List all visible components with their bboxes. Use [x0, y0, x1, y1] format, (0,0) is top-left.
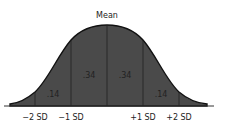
- normal-distribution-chart: Mean .14 .34 .34 .14 −2 SD −1 SD +1 SD +…: [0, 0, 225, 131]
- tick-label-minus-2sd: −2 SD: [22, 113, 48, 122]
- region-label: .34: [83, 71, 96, 80]
- region-label: .14: [47, 90, 60, 99]
- mean-label: Mean: [96, 11, 118, 20]
- region-label: .14: [155, 90, 168, 99]
- region-label: .34: [119, 71, 132, 80]
- tick-label-plus-2sd: +2 SD: [166, 113, 192, 122]
- tick-label-plus-1sd: +1 SD: [130, 113, 156, 122]
- bell-curve-area: [10, 25, 207, 106]
- tick-label-minus-1sd: −1 SD: [58, 113, 84, 122]
